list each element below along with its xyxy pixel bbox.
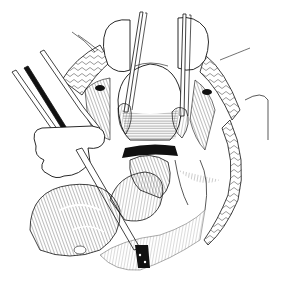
retractor-left <box>103 20 130 72</box>
illustration <box>0 0 283 287</box>
tissue-right <box>200 48 268 245</box>
surgical-drawing <box>0 0 283 287</box>
vessels-right <box>175 160 220 210</box>
